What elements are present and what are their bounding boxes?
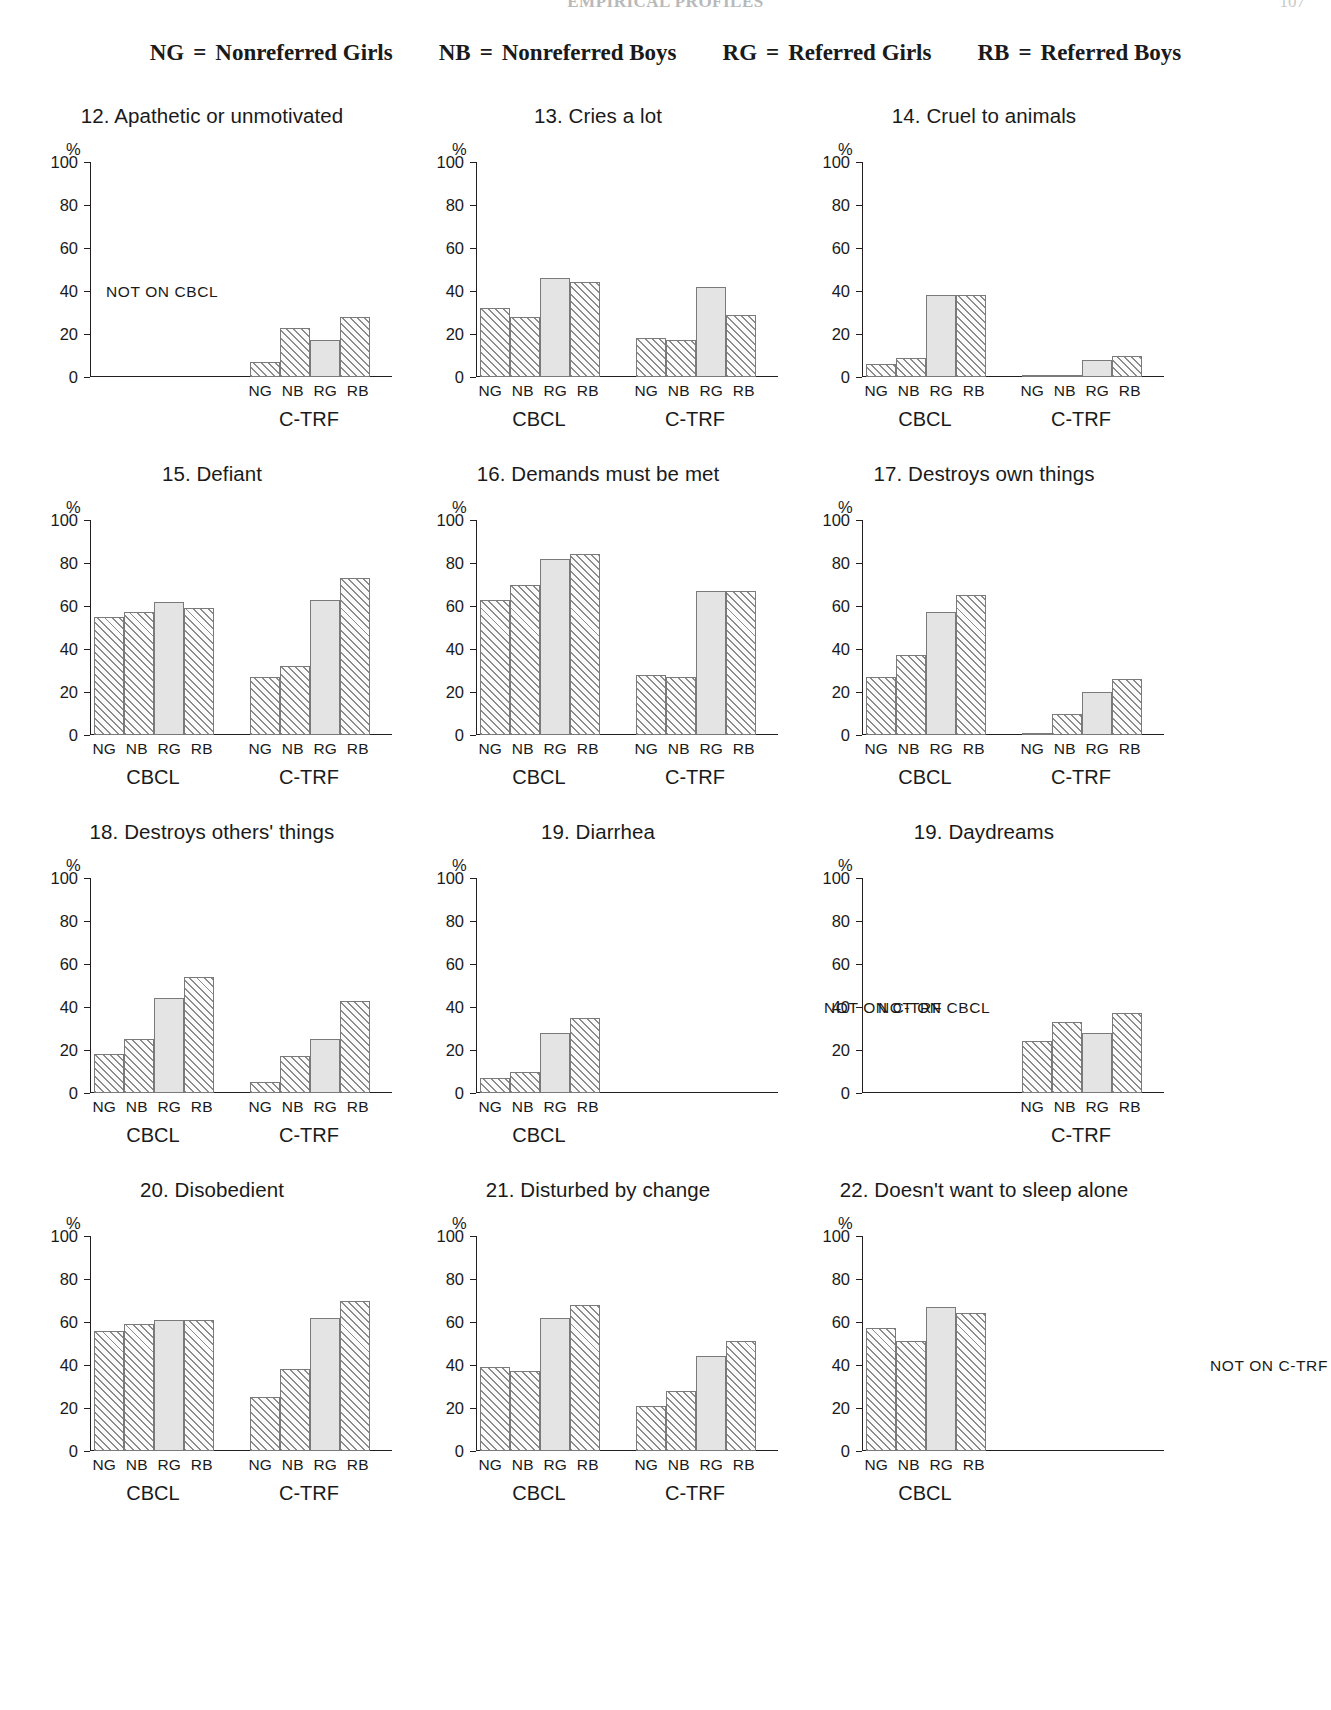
x-label-nb: NB — [507, 382, 540, 400]
x-label-ng: NG — [630, 740, 663, 758]
x-label-rb: RB — [572, 1456, 605, 1474]
y-axis-tick-label: 0 — [422, 368, 464, 387]
y-axis-tick-label: 80 — [36, 1270, 78, 1289]
x-axis-group-labels: NGNBRGRB — [88, 1098, 218, 1116]
x-label-rb: RB — [1114, 382, 1147, 400]
x-axis-group-labels: NGNBRGRB — [860, 740, 990, 758]
bar-rb — [1112, 679, 1142, 735]
y-axis-tick — [856, 377, 862, 378]
x-label-rb: RB — [728, 382, 761, 400]
y-axis-tick — [470, 377, 476, 378]
instrument-label-cbcl: CBCL — [474, 1124, 604, 1147]
y-axis-tick-label: 100 — [808, 511, 850, 530]
bar-group-c-trf — [1022, 878, 1144, 1093]
y-axis-tick-label: 100 — [36, 1227, 78, 1246]
y-axis-tick-label: 80 — [422, 196, 464, 215]
x-label-ng: NG — [860, 382, 893, 400]
y-axis-tick-label: 60 — [422, 955, 464, 974]
instrument-label-c-trf: C-TRF — [1016, 1124, 1146, 1147]
legend-equals: = — [1018, 40, 1031, 66]
bar-ng — [94, 1331, 124, 1451]
legend-code: NB — [439, 40, 471, 66]
x-axis-group-labels: NGNBRGRB — [1016, 740, 1146, 758]
y-axis-tick-label: 40 — [808, 640, 850, 659]
bar-rg — [310, 600, 340, 735]
chart-panel-item-13: 13. Cries a lot%100806040200NGNBRGRBCBCL… — [408, 100, 788, 458]
bar-group-cbcl — [866, 520, 988, 735]
legend-equals: = — [480, 40, 493, 66]
bars-layer — [476, 878, 778, 1093]
x-axis-group-labels: NGNBRGRB — [860, 1456, 990, 1474]
chart-title: 19. Diarrhea — [408, 820, 788, 844]
x-label-rg: RG — [309, 1456, 342, 1474]
bar-rg — [310, 1039, 340, 1093]
chart-panel-item-16: 16. Demands must be met%100806040200NGNB… — [408, 458, 788, 816]
bar-rb — [340, 1001, 370, 1093]
chart-title: 21. Disturbed by change — [408, 1178, 788, 1202]
y-axis-tick-label: 40 — [808, 1356, 850, 1375]
x-label-rg: RG — [153, 740, 186, 758]
bar-nb — [896, 358, 926, 377]
x-label-nb: NB — [277, 1098, 310, 1116]
x-label-ng: NG — [860, 740, 893, 758]
bar-ng — [866, 364, 896, 377]
y-axis-tick-label: 100 — [422, 1227, 464, 1246]
bar-ng — [1022, 733, 1052, 735]
legend-item-rb: RB=Referred Boys — [977, 40, 1181, 66]
bar-nb — [124, 1039, 154, 1093]
x-label-ng: NG — [1016, 1098, 1049, 1116]
bar-rb — [184, 1320, 214, 1451]
x-label-ng: NG — [860, 1456, 893, 1474]
legend-label: Nonreferred Boys — [502, 40, 677, 66]
bar-ng — [250, 362, 280, 377]
instrument-label-cbcl: CBCL — [474, 408, 604, 431]
bars-layer — [862, 520, 1164, 735]
bar-rb — [726, 1341, 756, 1451]
x-label-rb: RB — [1114, 1098, 1147, 1116]
bar-ng — [1022, 1041, 1052, 1093]
y-axis-tick-label: 80 — [808, 1270, 850, 1289]
bars-layer — [90, 162, 392, 377]
x-label-nb: NB — [663, 740, 696, 758]
x-axis-group-labels: NGNBRGRB — [244, 1098, 374, 1116]
chart-title: 22. Doesn't want to sleep alone — [794, 1178, 1174, 1202]
x-label-rb: RB — [958, 740, 991, 758]
bar-group-c-trf — [250, 1236, 372, 1451]
bar-group-cbcl — [480, 878, 602, 1093]
y-axis-tick-label: 0 — [36, 368, 78, 387]
x-label-rg: RG — [925, 382, 958, 400]
bar-ng — [250, 1397, 280, 1451]
bar-group-cbcl — [94, 878, 216, 1093]
x-label-nb: NB — [1049, 382, 1082, 400]
y-axis-tick-label: 40 — [36, 282, 78, 301]
bar-rb — [570, 1305, 600, 1451]
bar-rb — [570, 1018, 600, 1093]
bar-rg — [540, 1033, 570, 1093]
bar-group-cbcl — [480, 520, 602, 735]
y-axis-tick-label: 0 — [422, 1084, 464, 1103]
x-axis-group-labels: NGNBRGRB — [474, 1456, 604, 1474]
instrument-label-c-trf: C-TRF — [244, 766, 374, 789]
y-axis-tick-label: 0 — [808, 1442, 850, 1461]
y-axis-tick — [470, 1451, 476, 1452]
chart-panel-item-19-diarrhea: 19. Diarrhea%100806040200NGNBRGRBCBCLNOT… — [408, 816, 788, 1174]
bar-rg — [154, 602, 184, 735]
x-label-ng: NG — [630, 1456, 663, 1474]
x-label-ng: NG — [630, 382, 663, 400]
missing-instrument-note: NOT ON C-TRF — [1210, 1357, 1328, 1375]
y-axis-tick-label: 40 — [808, 282, 850, 301]
x-label-ng: NG — [1016, 740, 1049, 758]
instrument-label-c-trf: C-TRF — [630, 408, 760, 431]
x-axis-group-labels: NGNBRGRB — [630, 382, 760, 400]
x-label-rb: RB — [186, 740, 219, 758]
x-label-nb: NB — [121, 740, 154, 758]
legend-equals: = — [766, 40, 779, 66]
bar-rg — [926, 295, 956, 377]
chart-row: 15. Defiant%100806040200NGNBRGRBCBCLNGNB… — [0, 458, 1331, 816]
x-label-rg: RG — [153, 1456, 186, 1474]
x-axis-group-labels: NGNBRGRB — [630, 740, 760, 758]
bar-group-cbcl — [94, 520, 216, 735]
y-axis-tick-label: 100 — [422, 869, 464, 888]
y-axis-tick-label: 20 — [422, 1041, 464, 1060]
bar-rb — [184, 977, 214, 1093]
